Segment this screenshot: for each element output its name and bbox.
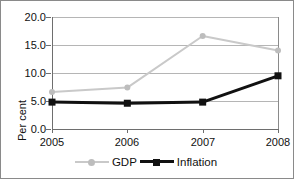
legend-item-inflation[interactable]: Inflation bbox=[140, 156, 220, 168]
series-line-gdp bbox=[52, 36, 278, 92]
data-point-gdp-2007 bbox=[200, 33, 206, 39]
data-point-inflation-2008 bbox=[275, 72, 282, 79]
chart-legend: GDP Inflation bbox=[0, 156, 295, 168]
legend-swatch-gdp bbox=[75, 157, 109, 167]
chart-container: Per cent 20.0 15.0 10.0 5.0 0.0 2005 200… bbox=[0, 0, 295, 180]
data-point-gdp-2005 bbox=[49, 89, 55, 95]
series-layer bbox=[0, 0, 295, 180]
data-point-gdp-2008 bbox=[275, 48, 281, 54]
data-point-inflation-2005 bbox=[49, 99, 56, 106]
data-point-inflation-2006 bbox=[124, 100, 131, 107]
legend-label-gdp: GDP bbox=[109, 156, 140, 168]
legend-item-gdp[interactable]: GDP bbox=[75, 156, 140, 168]
data-point-inflation-2007 bbox=[199, 99, 206, 106]
legend-label-inflation: Inflation bbox=[174, 156, 220, 168]
data-point-gdp-2006 bbox=[124, 85, 130, 91]
legend-swatch-inflation bbox=[140, 157, 174, 167]
